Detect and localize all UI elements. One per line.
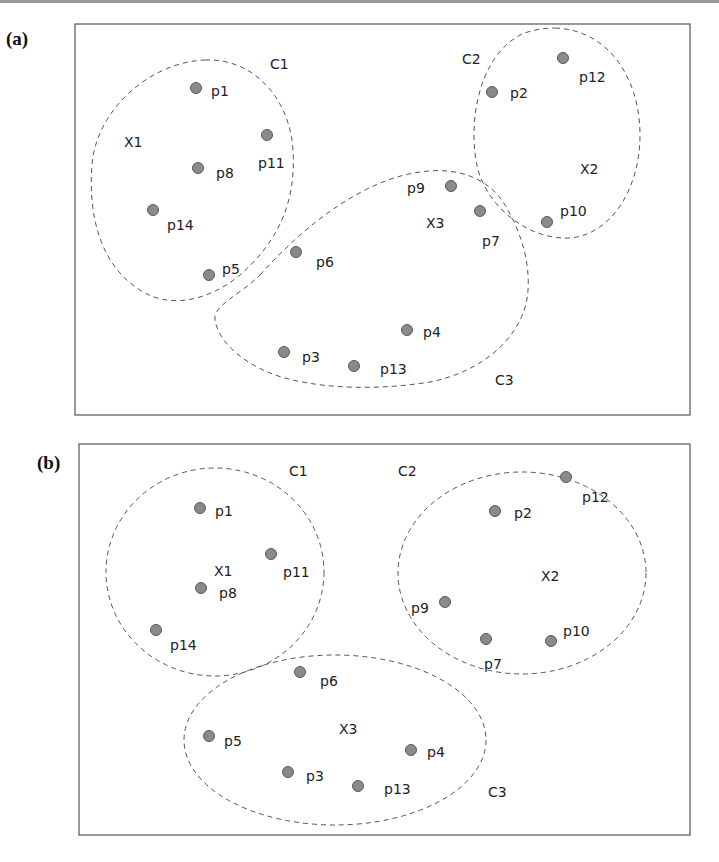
point-p11: [262, 130, 273, 141]
point-p2: [490, 506, 501, 517]
point-p13: [349, 361, 360, 372]
label-c3: C3: [495, 372, 514, 388]
label-x3: X3: [426, 215, 445, 231]
label-p4: p4: [427, 744, 445, 760]
cluster-c2-boundary: [474, 28, 640, 238]
label-p2: p2: [510, 85, 528, 101]
label-c1: C1: [289, 463, 308, 479]
label-p3: p3: [306, 768, 324, 784]
label-p13: p13: [380, 361, 407, 377]
point-p3: [279, 347, 290, 358]
label-p10: p10: [560, 203, 587, 219]
point-p6: [295, 667, 306, 678]
point-p9: [446, 181, 457, 192]
label-p6: p6: [316, 254, 334, 270]
point-p11: [266, 549, 277, 560]
point-p5: [204, 731, 215, 742]
label-p5: p5: [222, 261, 240, 277]
point-p4: [406, 745, 417, 756]
label-p1: p1: [211, 83, 229, 99]
label-p11: p11: [258, 155, 285, 171]
point-p10: [546, 636, 557, 647]
point-p13: [353, 781, 364, 792]
label-p13: p13: [384, 781, 411, 797]
point-p1: [195, 503, 206, 514]
label-p6: p6: [320, 673, 338, 689]
point-p1: [191, 83, 202, 94]
point-p10: [542, 217, 553, 228]
point-p8: [196, 583, 207, 594]
label-p7: p7: [482, 233, 500, 249]
label-p14: p14: [170, 637, 197, 653]
point-p14: [151, 625, 162, 636]
label-p14: p14: [167, 217, 194, 233]
label-p9: p9: [411, 600, 429, 616]
point-p7: [481, 634, 492, 645]
point-p9: [440, 597, 451, 608]
label-p2: p2: [514, 505, 532, 521]
point-p12: [558, 53, 569, 64]
cluster-c2-boundary: [398, 472, 646, 674]
label-x3: X3: [339, 721, 358, 737]
label-c3: C3: [488, 784, 507, 800]
label-p3: p3: [302, 349, 320, 365]
label-x1: X1: [214, 563, 233, 579]
label-x2: X2: [580, 161, 599, 177]
point-p5: [204, 270, 215, 281]
label-p10: p10: [563, 623, 590, 639]
point-p8: [193, 163, 204, 174]
label-p8: p8: [216, 165, 234, 181]
cluster-diagram: C1 C2 C3 X1 X2 X3 p1 p11 p8 p14 p5 p6 p2…: [0, 0, 719, 862]
label-p5: p5: [224, 733, 242, 749]
label-c2: C2: [462, 51, 481, 67]
label-p11: p11: [283, 564, 310, 580]
panel-b: C1 C2 C3 X1 X2 X3 p1 p11 p8 p14 p2 p12 p…: [79, 444, 690, 835]
cluster-c1-boundary: [91, 60, 293, 301]
point-p3: [283, 767, 294, 778]
label-p1: p1: [215, 503, 233, 519]
label-p12: p12: [582, 489, 609, 505]
label-p4: p4: [423, 324, 441, 340]
panel-a: C1 C2 C3 X1 X2 X3 p1 p11 p8 p14 p5 p6 p2…: [75, 24, 690, 415]
point-p6: [291, 247, 302, 258]
label-p7: p7: [484, 656, 502, 672]
label-x2: X2: [541, 568, 560, 584]
label-p12: p12: [579, 69, 606, 85]
label-c2: C2: [398, 463, 417, 479]
point-p7: [475, 206, 486, 217]
label-p9: p9: [407, 180, 425, 196]
point-p12: [561, 472, 572, 483]
cluster-c3-boundary: [215, 171, 528, 388]
label-x1: X1: [124, 134, 143, 150]
label-c1: C1: [270, 56, 289, 72]
label-p8: p8: [219, 585, 237, 601]
point-p4: [402, 325, 413, 336]
point-p2: [487, 87, 498, 98]
point-p14: [148, 205, 159, 216]
